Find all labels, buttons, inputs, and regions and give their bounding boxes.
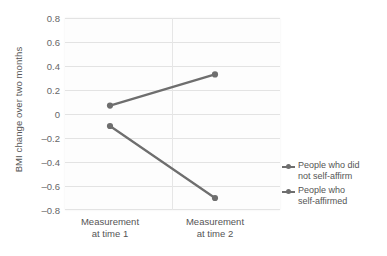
y-tick-label: 0.2 <box>22 85 60 96</box>
x-tick-label: Measurement at time 2 <box>160 216 270 240</box>
x-tick-label: Measurement at time 1 <box>55 216 165 240</box>
line-marker-icon <box>282 187 295 197</box>
y-tick-label: 0.6 <box>22 37 60 48</box>
series-self-affirmed <box>107 123 218 201</box>
y-tick-label: –0.4 <box>22 157 60 168</box>
x-axis-tick-labels: Measurement at time 1 Measurement at tim… <box>65 214 280 248</box>
legend-label: People who did not self-affirm <box>298 160 360 181</box>
y-tick-label: –0.6 <box>22 181 60 192</box>
y-tick-label: 0 <box>22 109 60 120</box>
legend-item[interactable]: People who did not self-affirm <box>282 160 387 181</box>
legend-label: People who self-affirmed <box>298 185 347 206</box>
y-tick-label: 0.4 <box>22 61 60 72</box>
series-not-self-affirm <box>107 71 218 108</box>
line-chart: BMI change over two months 0.8 0.6 0.4 0… <box>0 0 387 256</box>
y-tick-label: –0.8 <box>22 205 60 216</box>
legend: People who did not self-affirm People wh… <box>282 160 387 210</box>
plot-area <box>65 18 280 210</box>
y-tick-label: 0.8 <box>22 13 60 24</box>
series-layer <box>65 18 280 210</box>
line-marker-icon <box>282 162 295 172</box>
y-axis-tick-labels: 0.8 0.6 0.4 0.2 0 –0.2 –0.4 –0.6 –0.8 <box>20 0 60 256</box>
y-tick-label: –0.2 <box>22 133 60 144</box>
legend-item[interactable]: People who self-affirmed <box>282 185 387 206</box>
